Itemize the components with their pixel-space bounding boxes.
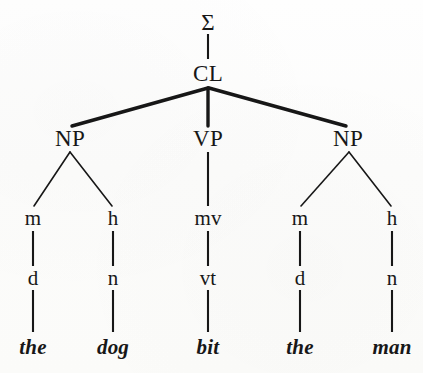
node-np-left: NP <box>55 127 85 150</box>
node-function-h-right: h <box>387 208 398 229</box>
node-root-sigma: Σ <box>201 11 215 34</box>
edge-np-right-to-m <box>301 152 349 206</box>
node-category-d-right: d <box>295 268 306 289</box>
edge-clause-to-np-right <box>209 88 346 126</box>
node-function-m-right: m <box>292 208 308 229</box>
node-word-bit: bit <box>197 337 220 358</box>
node-category-d-left: d <box>28 268 39 289</box>
node-np-right: NP <box>333 127 363 150</box>
syntax-tree-figure: Σ CL NP VP NP m h mv m h d n vt d n the … <box>0 0 423 373</box>
node-word-the-left: the <box>19 337 46 358</box>
node-category-n-right: n <box>387 268 398 289</box>
node-function-h-left: h <box>108 208 119 229</box>
edge-np-left-to-m <box>34 152 70 206</box>
node-function-m-left: m <box>25 208 41 229</box>
edge-clause-to-np-left <box>72 88 208 126</box>
node-clause: CL <box>193 62 223 85</box>
node-word-man: man <box>372 337 411 358</box>
tree-edges <box>0 0 423 373</box>
node-word-dog: dog <box>97 337 129 358</box>
node-function-mv: mv <box>195 208 222 229</box>
node-vp: VP <box>193 127 223 150</box>
node-category-vt: vt <box>200 268 216 289</box>
edge-np-left-to-h <box>70 152 112 206</box>
node-word-the-right: the <box>286 337 313 358</box>
edge-np-right-to-h <box>349 152 391 206</box>
node-category-n-left: n <box>108 268 119 289</box>
